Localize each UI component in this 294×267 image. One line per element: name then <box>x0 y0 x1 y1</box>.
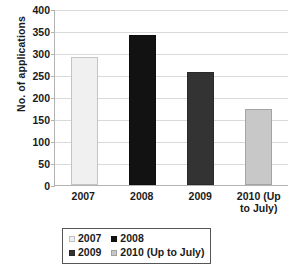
plot-area <box>54 10 288 186</box>
legend-label: 2009 <box>78 246 101 259</box>
bar-2010[interactable] <box>245 109 272 185</box>
legend-item[interactable]: 2007 <box>69 232 101 245</box>
x-tick-label: 2009 <box>171 190 230 214</box>
legend-label: 2008 <box>120 232 143 245</box>
bar-2008[interactable] <box>129 35 156 185</box>
bar-slot <box>113 10 171 185</box>
legend-label: 2010 (Up to July) <box>120 246 204 259</box>
legend-swatch-icon <box>69 236 75 242</box>
legend-swatch-icon <box>111 250 117 256</box>
legend: 2007200820092010 (Up to July) <box>62 228 211 264</box>
y-tick-label: 150 <box>24 114 50 126</box>
y-tick-label: 50 <box>24 158 50 170</box>
y-tick-label: 250 <box>24 70 50 82</box>
bar-group <box>55 10 288 185</box>
bar-slot <box>230 10 288 185</box>
y-axis-tick-labels: 400350300250200150100500 <box>24 10 50 186</box>
legend-item[interactable]: 2009 <box>69 246 101 259</box>
x-tick-label: 2007 <box>54 190 113 214</box>
y-tick-label: 400 <box>24 4 50 16</box>
y-tick-label: 350 <box>24 26 50 38</box>
bar-2009[interactable] <box>187 72 214 185</box>
x-tick-label: 2010 (Up to July) <box>230 190 289 214</box>
y-tick-label: 100 <box>24 136 50 148</box>
y-tick-mark <box>51 186 55 187</box>
y-tick-label: 200 <box>24 92 50 104</box>
bar-slot <box>172 10 230 185</box>
legend-item[interactable]: 2008 <box>111 232 204 245</box>
legend-item[interactable]: 2010 (Up to July) <box>111 246 204 259</box>
bar-2007[interactable] <box>71 57 98 185</box>
bar-chart: No. of applications 40035030025020015010… <box>0 0 294 267</box>
legend-swatch-icon <box>111 236 117 242</box>
legend-label: 2007 <box>78 232 101 245</box>
legend-swatch-icon <box>69 250 75 256</box>
y-tick-label: 300 <box>24 48 50 60</box>
bar-slot <box>55 10 113 185</box>
plot-wrapper: 400350300250200150100500 <box>24 10 288 190</box>
y-tick-label: 0 <box>24 180 50 192</box>
gridline <box>55 186 288 187</box>
x-axis-tick-labels: 2007200820092010 (Up to July) <box>54 190 288 214</box>
x-tick-label: 2008 <box>113 190 172 214</box>
legend-items: 2007200820092010 (Up to July) <box>69 232 204 259</box>
